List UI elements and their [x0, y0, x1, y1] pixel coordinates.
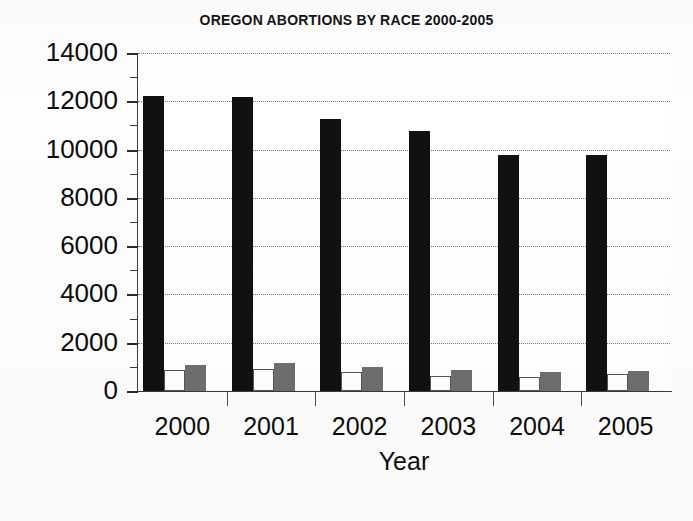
- bar: [451, 370, 472, 391]
- bar: [586, 155, 607, 391]
- bar: [430, 376, 451, 391]
- y-axis-major-tick: [127, 294, 138, 296]
- y-axis-major-tick: [127, 101, 138, 103]
- y-axis-minor-tick: [130, 270, 138, 271]
- x-axis-tick: [315, 392, 316, 406]
- x-axis-tick: [404, 392, 405, 406]
- y-axis-minor-tick: [130, 222, 138, 223]
- x-axis-title: Year: [138, 447, 670, 476]
- bar: [320, 119, 341, 391]
- y-axis-minor-tick: [130, 319, 138, 320]
- y-axis-minor-tick: [130, 125, 138, 126]
- y-axis-tick-label: 14000: [46, 39, 118, 65]
- bar: [628, 371, 649, 391]
- bar: [409, 131, 430, 392]
- y-axis-major-tick: [127, 53, 138, 55]
- y-axis-major-tick: [127, 150, 138, 152]
- y-axis-tick-label: 8000: [60, 184, 118, 210]
- y-axis-major-tick: [127, 246, 138, 248]
- bar: [143, 96, 164, 391]
- x-axis-tick-label: 2002: [315, 412, 405, 441]
- y-axis-major-tick: [127, 198, 138, 200]
- y-axis-tick-label: 10000: [46, 136, 118, 162]
- bar-group: [320, 53, 383, 391]
- x-axis-tick: [581, 392, 582, 406]
- bars-layer: [138, 53, 670, 391]
- x-axis-tick-label: 2003: [403, 412, 493, 441]
- x-axis-tick: [493, 392, 494, 406]
- bar: [341, 372, 362, 391]
- chart-title: OREGON ABORTIONS BY RACE 2000-2005: [0, 12, 693, 28]
- bar-group: [232, 53, 295, 391]
- bar: [498, 155, 519, 391]
- y-axis-minor-tick: [130, 77, 138, 78]
- x-axis-tick-label: 2004: [492, 412, 582, 441]
- bar-group: [586, 53, 649, 391]
- x-axis-tick-label: 2005: [581, 412, 671, 441]
- bar: [519, 377, 540, 391]
- chart-container: OREGON ABORTIONS BY RACE 2000-2005 02000…: [0, 0, 693, 521]
- x-axis-tick: [227, 392, 228, 406]
- bar: [362, 367, 383, 391]
- bar: [274, 363, 295, 391]
- y-axis-minor-tick: [130, 367, 138, 368]
- x-axis-tick-label: 2001: [226, 412, 316, 441]
- bar: [607, 374, 628, 391]
- bar: [164, 370, 185, 391]
- x-axis-tick-label: 2000: [137, 412, 227, 441]
- bar: [540, 372, 561, 391]
- y-axis-major-tick: [127, 391, 138, 393]
- bar-group: [409, 53, 472, 391]
- y-axis-major-tick: [127, 343, 138, 345]
- bar: [185, 365, 206, 391]
- y-axis-minor-tick: [130, 174, 138, 175]
- y-axis-tick-label: 0: [104, 377, 118, 403]
- bar-group: [498, 53, 561, 391]
- bar: [232, 97, 253, 391]
- bar: [253, 369, 274, 391]
- y-axis-tick-label: 6000: [60, 232, 118, 258]
- y-axis-tick-label: 12000: [46, 87, 118, 113]
- y-axis-tick-label: 4000: [60, 280, 118, 306]
- bar-group: [143, 53, 206, 391]
- y-axis-tick-label: 2000: [60, 329, 118, 355]
